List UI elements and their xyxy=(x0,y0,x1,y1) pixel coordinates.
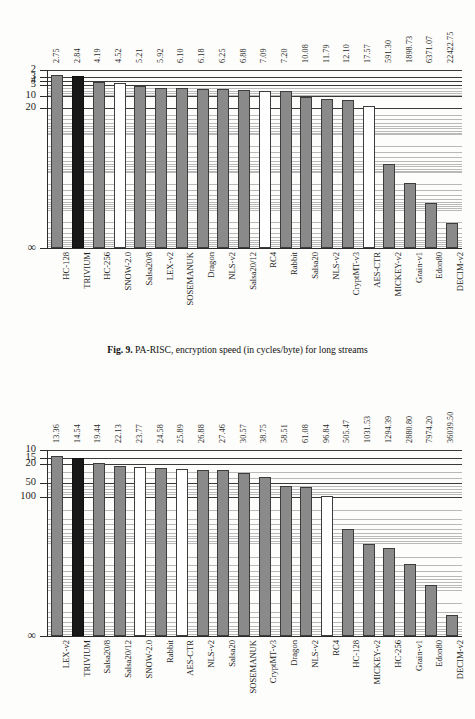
bar-value-label: 36039.50 xyxy=(446,411,455,443)
gridline-minor xyxy=(47,536,462,537)
x-axis-category-label: Edon80 xyxy=(434,640,444,667)
gridline-minor xyxy=(47,119,462,120)
bar-value-label: 26.88 xyxy=(197,424,206,443)
x-axis-category-label: LEX-v2 xyxy=(61,640,71,668)
bar-value-label: 14.54 xyxy=(73,424,82,443)
gridline-minor xyxy=(47,152,462,153)
bar-value-label: 19.44 xyxy=(93,424,102,443)
bar-value-label: 13.36 xyxy=(52,424,61,443)
bar-value-label: 505.47 xyxy=(342,420,351,443)
bar xyxy=(321,99,333,248)
caption-figure-text: PA-RISC, encryption speed (in cycles/byt… xyxy=(135,344,368,355)
x-axis-category-label: Salsa20/8 xyxy=(102,640,112,673)
x-axis-category-label: Dragon xyxy=(289,640,299,666)
bar xyxy=(72,458,84,636)
bar-value-label: 1294.39 xyxy=(384,416,393,443)
plot-area-top: 23451020∞ xyxy=(0,70,475,248)
bar xyxy=(446,615,458,636)
bar-value-label: 61.08 xyxy=(301,424,310,443)
y-axis-tick xyxy=(40,464,47,465)
value-label-strip-bottom: 13.3614.5419.4422.1323.7724.5825.8926.88… xyxy=(0,382,475,444)
x-axis-category-label: DECIM-v2 xyxy=(455,640,465,679)
bar xyxy=(134,467,146,636)
bar-value-label: 25.89 xyxy=(176,424,185,443)
bar xyxy=(155,468,167,636)
bar-value-label: 1031.53 xyxy=(363,416,372,443)
plot-area-bottom: 10152050100∞ xyxy=(0,450,475,636)
x-axis-baseline xyxy=(40,636,462,637)
gridline-minor xyxy=(47,190,462,191)
x-axis-category-label: NLS-v2 xyxy=(331,252,341,280)
bar-value-label: 12.10 xyxy=(342,44,351,63)
y-axis-tick xyxy=(40,108,47,109)
x-axis-category-label: SNOW-2.0 xyxy=(123,252,133,290)
gridline-minor xyxy=(47,184,462,185)
bar-value-label: 27.46 xyxy=(218,424,227,443)
gridline-minor xyxy=(47,164,462,165)
bar xyxy=(197,470,209,636)
gridline-minor xyxy=(47,543,462,544)
gridline-minor xyxy=(47,510,462,511)
category-label-strip-bottom: LEX-v2TRIVIUMSalsa20/8Salsa20/12SNOW-2.0… xyxy=(0,640,475,718)
gridline-minor xyxy=(47,199,462,200)
y-axis-tick xyxy=(40,497,47,498)
x-axis-category-label: HC-256 xyxy=(393,640,403,668)
x-axis-category-label: RC4 xyxy=(268,252,278,268)
x-axis-category-label: HC-128 xyxy=(61,252,71,280)
gridline-minor xyxy=(47,486,462,487)
bar-value-label: 30.57 xyxy=(239,424,248,443)
gridline-minor xyxy=(47,210,462,211)
bar xyxy=(238,473,250,636)
gridline-minor xyxy=(47,222,462,223)
bar xyxy=(217,470,229,636)
y-axis-label: 20 xyxy=(0,457,36,468)
figure-encryption-speed-secondary: 13.3614.5419.4422.1323.7724.5825.8926.88… xyxy=(0,382,475,719)
gridline-minor xyxy=(47,237,462,238)
gridline-minor xyxy=(47,478,462,479)
category-label-strip-top: HC-128TRIVIUMHC-256SNOW-2.0Salsa20/8LEX-… xyxy=(0,252,475,322)
gridline-minor xyxy=(47,242,462,243)
bar xyxy=(425,585,437,636)
bar-value-label: 24.58 xyxy=(156,424,165,443)
bar xyxy=(280,91,292,248)
gridline-minor xyxy=(47,565,462,566)
bar xyxy=(176,88,188,248)
x-axis-category-label: Rabbit xyxy=(289,252,299,275)
y-axis-tick xyxy=(40,85,47,86)
x-axis-category-label: DECIM-v2 xyxy=(455,252,465,291)
gridline-minor xyxy=(47,244,462,245)
gridline-major xyxy=(47,70,462,71)
x-axis-category-label: MICKEY-v2 xyxy=(393,252,403,296)
bar-value-label: 7.20 xyxy=(280,48,289,63)
bar-value-label: 4.19 xyxy=(93,48,102,63)
gridline-minor xyxy=(47,612,462,613)
bar xyxy=(300,487,312,636)
gridline-minor xyxy=(47,617,462,618)
bar-value-label: 1898.73 xyxy=(405,36,414,63)
x-axis-category-label: SOSEMANUK xyxy=(248,640,258,693)
gridline-minor xyxy=(47,161,462,162)
x-axis-baseline xyxy=(40,248,462,249)
gridline-minor xyxy=(47,166,462,167)
x-axis-category-label: NLS-v2 xyxy=(310,640,320,668)
bar-value-label: 22.13 xyxy=(114,424,123,443)
x-axis-category-label: MICKEY-v2 xyxy=(372,640,382,684)
bar xyxy=(280,486,292,636)
x-axis-category-label: HC-128 xyxy=(351,640,361,668)
bar xyxy=(114,83,126,248)
y-axis-label: 100 xyxy=(0,490,36,501)
y-axis-tick xyxy=(40,81,47,82)
y-axis-tick xyxy=(40,77,47,78)
bar xyxy=(238,90,250,248)
gridline-major xyxy=(47,85,462,86)
gridline-minor xyxy=(47,629,462,630)
gridline-minor xyxy=(47,582,462,583)
gridline-minor xyxy=(47,123,462,124)
gridline-minor xyxy=(47,631,462,632)
x-axis-category-label: Salsa20 xyxy=(310,252,320,279)
gridline-minor xyxy=(47,494,462,495)
x-axis-category-label: TRIVIUM xyxy=(82,252,92,289)
gridline-minor xyxy=(47,576,462,577)
gridline-minor xyxy=(47,585,462,586)
x-axis-category-label: RC4 xyxy=(331,640,341,656)
